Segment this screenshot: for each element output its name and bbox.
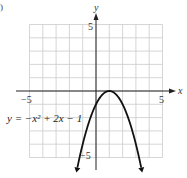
- y-tick-label-5: 5: [88, 22, 93, 32]
- chart-plot-area: [0, 0, 187, 178]
- x-tick-label-neg5: −5: [21, 95, 32, 105]
- y-axis-label: y: [94, 3, 98, 13]
- y-tick-label-neg5: −5: [80, 151, 91, 161]
- axes: [16, 13, 176, 170]
- x-tick-label-5: 5: [159, 95, 164, 105]
- equation-label: y = −x² + 2x − 1: [7, 112, 82, 124]
- x-axis-label: x: [178, 86, 182, 96]
